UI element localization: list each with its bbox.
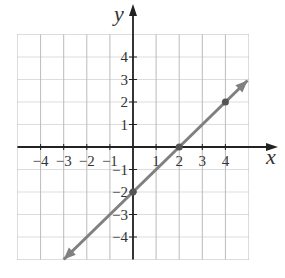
x-tick-label: 2 [175,153,183,169]
x-tick-label: −4 [33,153,49,169]
x-axis-label: x [265,144,276,169]
axes [18,4,279,260]
coordinate-plane: −4−3−2−112344321−1−2−3−4 x y [0,0,285,278]
y-tick-label: −1 [112,162,128,178]
data-point [176,144,183,151]
y-tick-label: −4 [112,229,128,245]
y-axis-label: y [112,1,124,26]
x-tick-label: −2 [79,153,95,169]
y-tick-label: 2 [121,94,129,110]
data-point [222,99,229,106]
y-tick-label: 1 [121,117,129,133]
x-tick-label: 3 [199,153,207,169]
y-tick-label: 3 [121,72,129,88]
data-point [130,189,137,196]
x-tick-label: 4 [222,153,230,169]
y-tick-label: 4 [121,49,129,65]
x-tick-label: −3 [56,153,72,169]
